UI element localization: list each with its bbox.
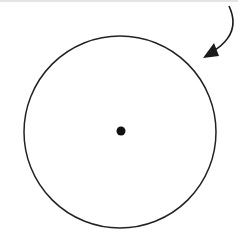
rotation-arrow-curve [212,6,233,52]
center-point [117,127,126,136]
circle-diagram [0,0,238,248]
arrowhead-icon [203,43,219,58]
